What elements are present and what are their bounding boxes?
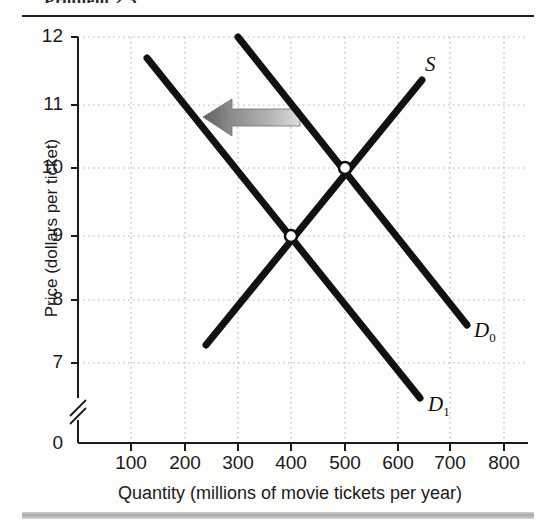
supply-label-text: S — [425, 52, 436, 76]
x-tick-label-500: 500 — [322, 452, 368, 474]
demand-curve-d0 — [238, 37, 467, 325]
y-axis-title: Price (dollars per ticket) — [42, 98, 62, 358]
x-tick-label-400: 400 — [268, 452, 314, 474]
demand-curve-d1-label: D1 — [428, 392, 450, 420]
x-tick-label-100: 100 — [108, 452, 154, 474]
demand1-label-subscript: 1 — [443, 404, 450, 419]
x-tick-label-300: 300 — [215, 452, 261, 474]
bottom-gray-band — [22, 512, 534, 519]
supply-curve-label: S — [425, 52, 436, 77]
y-tick-label-12: 12 — [33, 25, 63, 47]
x-axis-tick-marks — [131, 443, 504, 451]
x-axis-title: Quantity (millions of movie tickets per … — [60, 483, 520, 504]
demand0-label-letter: D — [474, 318, 489, 342]
demand-curve-d0-label: D0 — [474, 318, 496, 346]
axis-lines — [78, 37, 528, 443]
figure-page: Problem 2.3 — [0, 0, 542, 529]
chart-plot-area: 12 11 10 9 8 7 0 100 200 300 400 500 600… — [0, 0, 542, 529]
equilibrium-point-new — [285, 230, 297, 242]
x-tick-label-600: 600 — [375, 452, 421, 474]
vertical-gridlines — [131, 37, 504, 443]
x-tick-label-800: 800 — [481, 452, 527, 474]
x-tick-label-700: 700 — [427, 452, 473, 474]
y-tick-label-0: 0 — [33, 432, 63, 454]
equilibrium-point-original — [339, 162, 351, 174]
x-tick-label-200: 200 — [162, 452, 208, 474]
demand0-label-subscript: 0 — [489, 330, 496, 345]
demand-shift-arrow — [203, 99, 300, 136]
chart-svg — [0, 0, 542, 529]
y-axis-tick-marks — [71, 37, 78, 363]
demand1-label-letter: D — [428, 392, 443, 416]
